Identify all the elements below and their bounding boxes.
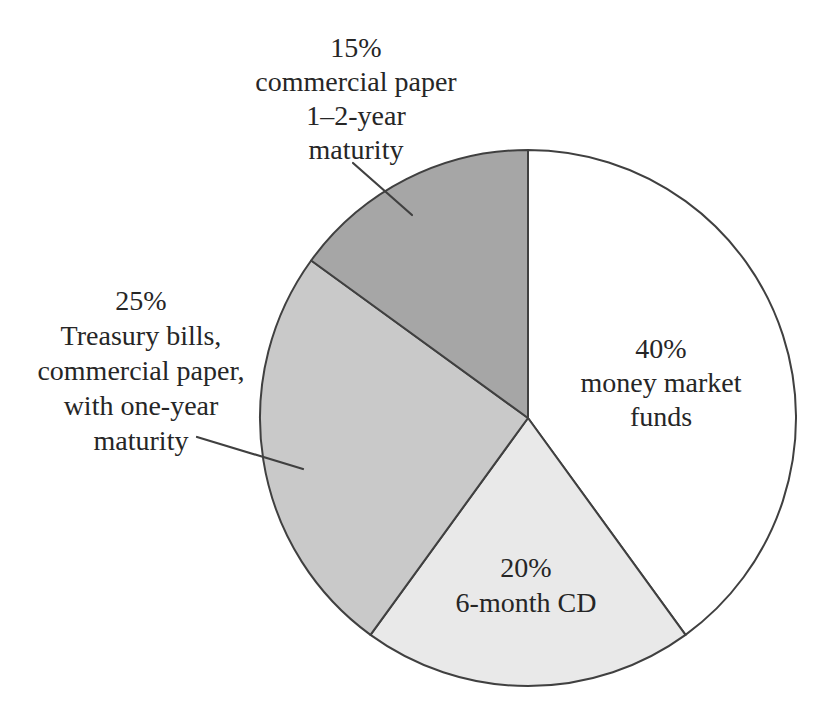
pie-chart-figure: 15% commercial paper 1–2-year maturity 2…	[0, 0, 828, 722]
label-six-month-cd: 20% 6-month CD	[456, 550, 597, 620]
label-line: money market	[581, 366, 742, 400]
label-line: Treasury bills,	[37, 318, 244, 353]
label-line: maturity	[255, 133, 456, 167]
label-commercial-paper-1-2-year: 15% commercial paper 1–2-year maturity	[255, 31, 456, 167]
label-line: 1–2-year	[255, 99, 456, 133]
label-line-pct: 40%	[581, 332, 742, 366]
label-line: maturity	[37, 423, 244, 458]
label-line-pct: 20%	[456, 550, 597, 585]
label-line: commercial paper,	[37, 353, 244, 388]
label-treasury-bills-commercial-paper: 25% Treasury bills, commercial paper, wi…	[37, 283, 244, 458]
label-line: commercial paper	[255, 65, 456, 99]
label-line-pct: 25%	[37, 283, 244, 318]
label-line-pct: 15%	[255, 31, 456, 65]
label-line: 6-month CD	[456, 585, 597, 620]
label-money-market-funds: 40% money market funds	[581, 332, 742, 434]
label-line: funds	[581, 400, 742, 434]
label-line: with one-year	[37, 388, 244, 423]
